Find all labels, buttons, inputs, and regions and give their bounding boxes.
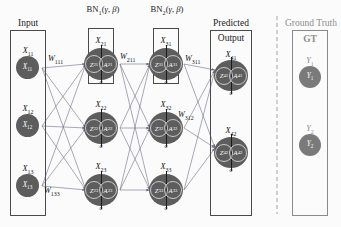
weight-label-w111: W111 [48, 54, 63, 65]
hidden1-node-3-a: A23 [99, 181, 117, 199]
output-node-2-activation: σ [230, 167, 233, 173]
hidden2-node-3-activation: σ [165, 205, 168, 211]
hidden1-node-1[interactable]: Z21 A21 σ [84, 48, 118, 80]
ground-truth-caption-inner: GT [292, 34, 328, 44]
output-node-1-activation: σ [230, 90, 233, 96]
input-node-2-text: X12 [23, 121, 33, 130]
hidden1-node-2[interactable]: Z22 A22 σ [84, 112, 118, 144]
bn2-label: BN2(γ, β) [134, 4, 200, 16]
hidden2-node-3[interactable]: Z33 A33 σ [149, 174, 183, 206]
hidden2-node-2-activation: σ [165, 143, 168, 149]
input-node-1-text: X11 [23, 63, 32, 72]
input-layer-caption: Input [6, 18, 50, 28]
diagram-canvas: Input X11 X11 X12 X12 X13 X13 W111 W133 … [0, 0, 341, 227]
hidden1-node-1-a: A21 [99, 55, 117, 73]
hidden1-node-2-a: A22 [99, 119, 117, 137]
hidden2-node-3-a: A33 [164, 181, 182, 199]
ground-truth-caption-top: Ground Truth [283, 18, 339, 28]
weight-label-w211: W211 [120, 52, 135, 63]
weight-label-w311: W311 [185, 54, 200, 65]
hidden2-node-2-a: A32 [164, 119, 182, 137]
hidden2-node-1[interactable]: Z31 A31 σ [149, 48, 183, 80]
hidden2-node-1-activation: σ [165, 79, 168, 85]
bn1-label: BN1(γ, β) [70, 4, 136, 16]
output-layer-caption-inner: Output [210, 33, 252, 43]
hidden1-node-3-activation: σ [100, 205, 103, 211]
hidden1-node-1-activation: σ [100, 79, 103, 85]
weight-label-w133: W133 [44, 186, 60, 197]
output-node-2-a: A42 [229, 144, 247, 162]
output-node-1[interactable]: Z41 A41 σ [214, 60, 248, 91]
input-node-2[interactable]: X12 [16, 114, 39, 137]
gt-node-1[interactable]: Y1 [299, 66, 321, 88]
hidden1-node-2-activation: σ [100, 143, 103, 149]
gt-node-2[interactable]: Y2 [299, 134, 321, 156]
hidden2-node-1-a: A31 [164, 55, 182, 73]
output-node-1-a: A41 [229, 67, 247, 85]
gt-node-2-text: Y2 [307, 140, 314, 149]
input-node-3[interactable]: X13 [16, 174, 39, 197]
hidden1-node-3[interactable]: Z23 A23 σ [84, 174, 118, 206]
output-layer-caption-top: Predicted [203, 18, 259, 28]
weight-label-w312: W312 [178, 110, 194, 121]
gt-node-1-text: Y1 [307, 72, 314, 81]
input-node-3-text: X13 [23, 181, 33, 190]
output-node-2[interactable]: Z42 A42 σ [214, 137, 248, 168]
input-node-1[interactable]: X11 [16, 56, 39, 79]
